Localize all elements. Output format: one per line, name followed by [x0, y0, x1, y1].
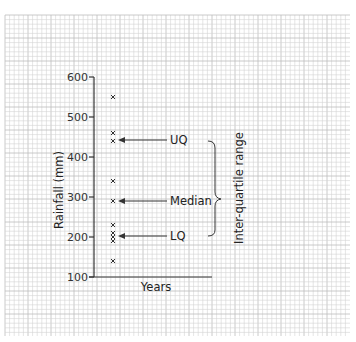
y-tick-label: 100: [67, 271, 88, 284]
y-tick-label: 500: [67, 111, 88, 124]
uq-annotation: UQ: [118, 133, 187, 147]
x-marker-icon: [111, 199, 115, 203]
x-axis-label: Years: [140, 280, 171, 294]
uq-label: UQ: [170, 133, 187, 147]
x-marker-icon: [111, 179, 115, 183]
data-points: [111, 95, 115, 263]
y-axis: 100200300400500600: [67, 71, 94, 284]
median-annotation: Median: [118, 194, 212, 208]
median-label: Median: [170, 194, 212, 208]
arrow-left-icon: [118, 233, 125, 239]
y-axis-label: Rainfall (mm): [52, 151, 66, 229]
y-tick-label: 600: [67, 71, 88, 84]
y-tick-label: 200: [67, 231, 88, 244]
lq-label: LQ: [170, 229, 185, 243]
x-marker-icon: [111, 139, 115, 143]
x-marker-icon: [111, 95, 115, 99]
x-marker-icon: [111, 231, 115, 235]
y-tick-label: 300: [67, 191, 88, 204]
y-tick-label: 400: [67, 151, 88, 164]
x-marker-icon: [111, 239, 115, 243]
iqr-label: Inter-quartile range: [232, 132, 246, 244]
rainfall-chart: 100200300400500600 Years Rainfall (mm) U…: [0, 0, 356, 342]
arrow-left-icon: [118, 137, 125, 143]
x-marker-icon: [111, 259, 115, 263]
